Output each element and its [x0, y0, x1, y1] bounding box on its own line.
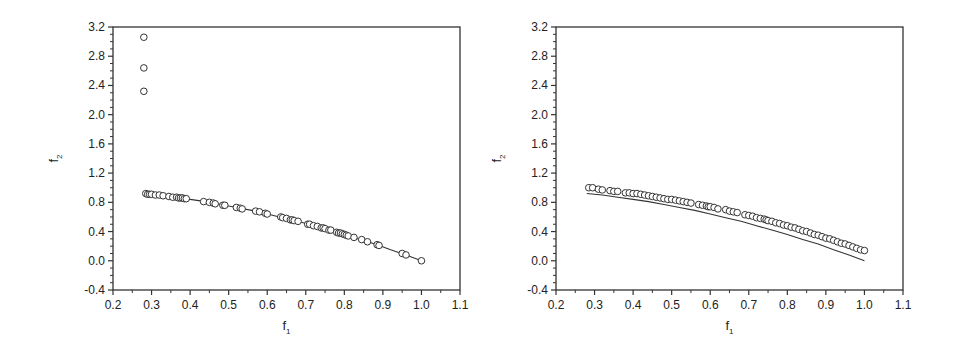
solution-markers [141, 34, 425, 264]
data-point-marker [715, 206, 722, 213]
reference-front-line [144, 194, 422, 261]
x-tick-label: 0.4 [625, 298, 642, 312]
y-tick-label: 3.2 [531, 20, 548, 34]
y-tick-label: -0.4 [527, 283, 548, 297]
x-tick-label: 1.0 [413, 298, 430, 312]
x-tick-label: 0.9 [375, 298, 392, 312]
plot-frame [556, 27, 903, 290]
x-tick-label: 0.8 [336, 298, 353, 312]
data-point-marker [861, 247, 868, 254]
solution-markers [585, 184, 867, 253]
x-tick-label: 0.9 [818, 298, 835, 312]
chart-right: 0.20.30.40.50.60.70.80.91.01.1-0.40.00.4… [477, 0, 955, 357]
data-point-marker [295, 218, 302, 225]
y-tick-label: 1.2 [88, 166, 105, 180]
data-point-marker [222, 202, 229, 209]
y-tick-label: 3.2 [88, 20, 105, 34]
data-point-marker [734, 209, 741, 216]
data-point-marker [403, 252, 410, 259]
y-axis-label: f2 [489, 154, 507, 163]
y-tick-label: 2.8 [88, 49, 105, 63]
x-tick-label: 0.5 [663, 298, 680, 312]
x-tick-label: 0.4 [182, 298, 199, 312]
y-tick-label: -0.4 [84, 283, 105, 297]
data-point-marker [351, 234, 358, 241]
data-point-marker [141, 65, 148, 72]
y-tick-label: 0.4 [88, 225, 105, 239]
reference-front-line [587, 194, 865, 261]
y-tick-label: 0.8 [531, 195, 548, 209]
data-point-marker [614, 188, 621, 195]
x-axis: 0.20.30.40.50.60.70.80.91.01.1 [548, 290, 912, 312]
y-tick-label: 1.2 [531, 166, 548, 180]
data-point-marker [264, 211, 271, 218]
y-tick-label: 2.0 [531, 108, 548, 122]
y-tick-label: 0.0 [88, 254, 105, 268]
scatter-plot-left: 0.20.30.40.50.60.70.80.91.01.1-0.40.00.4… [0, 0, 478, 357]
x-tick-label: 0.8 [779, 298, 796, 312]
y-axis: -0.40.00.40.81.21.62.02.42.83.2 [84, 20, 113, 297]
x-tick-label: 1.0 [856, 298, 873, 312]
x-tick-label: 0.3 [586, 298, 603, 312]
y-tick-label: 2.4 [531, 78, 548, 92]
x-tick-label: 0.7 [297, 298, 314, 312]
data-point-marker [141, 88, 148, 95]
x-tick-label: 1.1 [895, 298, 912, 312]
x-tick-label: 0.3 [143, 298, 160, 312]
y-axis-label: f2 [46, 154, 64, 163]
data-point-marker [599, 187, 606, 194]
y-tick-label: 2.4 [88, 78, 105, 92]
scatter-plot-right: 0.20.30.40.50.60.70.80.91.01.1-0.40.00.4… [477, 0, 955, 357]
x-tick-label: 0.5 [220, 298, 237, 312]
y-tick-label: 2.0 [88, 108, 105, 122]
x-tick-label: 0.7 [740, 298, 757, 312]
data-point-marker [688, 200, 695, 207]
x-tick-label: 0.6 [702, 298, 719, 312]
y-tick-label: 0.4 [531, 225, 548, 239]
data-point-marker [183, 195, 190, 202]
x-tick-label: 1.1 [452, 298, 469, 312]
x-tick-label: 0.2 [548, 298, 565, 312]
data-point-marker [239, 206, 246, 213]
x-axis-label: f1 [282, 318, 291, 336]
x-axis: 0.20.30.40.50.60.70.80.91.01.1 [105, 290, 469, 312]
data-point-marker [418, 257, 425, 264]
y-tick-label: 0.0 [531, 254, 548, 268]
x-tick-label: 0.2 [105, 298, 122, 312]
data-point-marker [364, 238, 371, 245]
data-point-marker [141, 34, 148, 41]
chart-left: 0.20.30.40.50.60.70.80.91.01.1-0.40.00.4… [0, 0, 478, 357]
y-tick-label: 1.6 [88, 137, 105, 151]
data-point-marker [376, 242, 383, 249]
data-point-marker [212, 200, 219, 207]
y-axis: -0.40.00.40.81.21.62.02.42.83.2 [527, 20, 556, 297]
y-tick-label: 2.8 [531, 49, 548, 63]
x-axis-label: f1 [725, 318, 734, 336]
x-tick-label: 0.6 [259, 298, 276, 312]
y-tick-label: 1.6 [531, 137, 548, 151]
y-tick-label: 0.8 [88, 195, 105, 209]
plot-frame [113, 27, 460, 290]
